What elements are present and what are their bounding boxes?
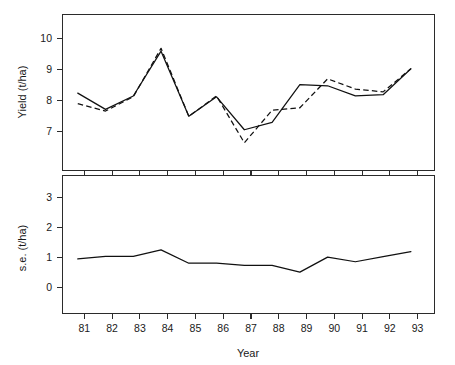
x-ticklabel-87: 87 xyxy=(245,322,257,334)
x-axis-title: Year xyxy=(237,347,260,359)
bottom-panel-x-ticklabels: 81 82 83 84 85 86 87 88 89 90 91 92 93 xyxy=(78,322,423,334)
top-panel-frame xyxy=(63,15,435,171)
x-ticklabel-85: 85 xyxy=(190,322,202,334)
yield-series-solid xyxy=(78,51,411,130)
top-panel-y-axis-title: Yield (t/ha) xyxy=(16,66,28,119)
top-panel-y-ticks xyxy=(57,39,63,132)
bottom-panel-frame xyxy=(63,176,435,314)
yield-and-se-chart: 10 9 8 7 Yield (t/ha) xyxy=(0,0,455,365)
x-ticklabel-84: 84 xyxy=(162,322,174,334)
y-ticklabel-7: 7 xyxy=(46,125,52,137)
bottom-panel-x-ticks xyxy=(84,314,417,320)
x-ticklabel-83: 83 xyxy=(134,322,146,334)
bottom-panel-y-ticklabels: 3 2 1 0 xyxy=(46,191,52,293)
figure-container: 10 9 8 7 Yield (t/ha) xyxy=(0,0,455,365)
bottom-panel-y-axis-title: s.e. (t/ha) xyxy=(16,225,28,271)
se-y-ticklabel-0: 0 xyxy=(46,281,52,293)
se-y-ticklabel-2: 2 xyxy=(46,221,52,233)
x-ticklabel-93: 93 xyxy=(412,322,424,334)
se-series-line xyxy=(78,250,411,272)
se-y-ticklabel-3: 3 xyxy=(46,191,52,203)
y-ticklabel-8: 8 xyxy=(46,94,52,106)
x-ticklabel-91: 91 xyxy=(356,322,368,334)
top-panel: 10 9 8 7 Yield (t/ha) xyxy=(16,15,435,177)
y-ticklabel-9: 9 xyxy=(46,63,52,75)
x-ticklabel-90: 90 xyxy=(328,322,340,334)
y-ticklabel-10: 10 xyxy=(40,32,52,44)
x-ticklabel-81: 81 xyxy=(78,322,90,334)
se-y-ticklabel-1: 1 xyxy=(46,251,52,263)
x-ticklabel-82: 82 xyxy=(106,322,118,334)
x-ticklabel-92: 92 xyxy=(384,322,396,334)
bottom-panel-y-ticks xyxy=(57,198,63,288)
x-ticklabel-86: 86 xyxy=(217,322,229,334)
x-ticklabel-88: 88 xyxy=(273,322,285,334)
x-ticklabel-89: 89 xyxy=(301,322,313,334)
top-panel-y-ticklabels: 10 9 8 7 xyxy=(40,32,52,137)
bottom-panel: 3 2 1 0 s.e. (t/ha) xyxy=(16,176,435,360)
